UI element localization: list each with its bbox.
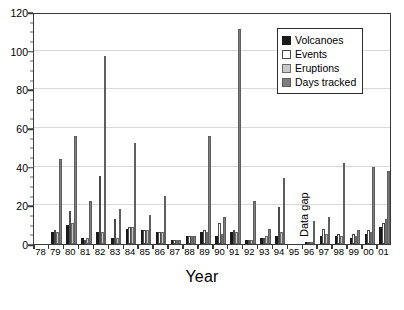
x-axis-tick-label: 99 — [348, 247, 359, 257]
y-axis-labels: 020406080100120 — [0, 0, 28, 310]
y-axis-tick-label: 120 — [10, 8, 28, 19]
bar-group — [365, 12, 378, 244]
x-axis-tick-label: 83 — [110, 247, 121, 257]
bar-group — [215, 12, 228, 244]
bar-group — [156, 12, 169, 244]
y-axis-tick — [28, 51, 33, 53]
x-axis-tick-label: 79 — [50, 247, 61, 257]
bar-group — [171, 12, 184, 244]
bar-days — [328, 217, 331, 244]
legend-label: Days tracked — [295, 77, 356, 88]
legend-item: Events — [282, 47, 356, 61]
y-axis-minor-tick — [30, 42, 33, 43]
bar-group — [51, 12, 64, 244]
legend-label: Events — [295, 49, 327, 60]
bar-group — [96, 12, 109, 244]
bar-days — [178, 240, 181, 244]
legend-swatch-days — [282, 78, 291, 87]
x-axis-tick-label: 88 — [184, 247, 195, 257]
bar-days — [119, 209, 122, 244]
y-axis-tick-label: 100 — [10, 46, 28, 57]
y-axis-minor-tick — [30, 148, 33, 149]
bar-days — [193, 236, 196, 244]
bar-days — [283, 178, 286, 244]
x-axis-tick-label: 87 — [169, 247, 180, 257]
bar-group — [200, 12, 213, 244]
x-axis-tick-label: 82 — [95, 247, 106, 257]
bar-group — [126, 12, 139, 244]
bar-days — [208, 136, 211, 244]
bar-days — [134, 143, 137, 244]
bar-days — [268, 229, 271, 244]
bar-days — [372, 167, 375, 244]
y-axis-minor-tick — [30, 71, 33, 72]
y-axis-tick — [28, 12, 33, 14]
y-axis-minor-tick — [30, 61, 33, 62]
x-axis-tick-label: 97 — [319, 247, 330, 257]
y-axis-minor-tick — [30, 119, 33, 120]
bar-days — [313, 221, 316, 244]
bar-group — [230, 12, 243, 244]
legend-swatch-eruptions — [282, 64, 291, 73]
legend-label: Volcanoes — [295, 35, 343, 46]
y-axis-tick — [28, 206, 33, 208]
bar-days — [164, 196, 167, 244]
x-axis-title: Year — [0, 268, 404, 286]
bar-days — [89, 201, 92, 244]
y-axis-minor-tick — [30, 100, 33, 101]
x-axis-tick-label: 95 — [289, 247, 300, 257]
bar-group — [81, 12, 94, 244]
legend-swatch-volcanoes — [282, 36, 291, 45]
y-axis-minor-tick — [30, 32, 33, 33]
bar-group — [379, 12, 392, 244]
x-axis-tick-label: 91 — [229, 247, 240, 257]
y-axis-minor-tick — [30, 80, 33, 81]
y-axis-tick — [28, 167, 33, 169]
x-axis-tick-label: 80 — [65, 247, 76, 257]
bar-group — [36, 12, 49, 244]
x-axis-tick-label: 81 — [80, 247, 91, 257]
bar-group — [186, 12, 199, 244]
y-axis-minor-tick — [30, 235, 33, 236]
bar-group — [245, 12, 258, 244]
bar-days — [223, 217, 226, 244]
y-axis-minor-tick — [30, 196, 33, 197]
bar-days — [59, 159, 62, 244]
bar-days — [357, 230, 360, 244]
bar-days — [253, 201, 256, 244]
legend-swatch-events — [282, 50, 291, 59]
x-axis-tick-label: 90 — [214, 247, 225, 257]
x-axis-tick-label: 98 — [333, 247, 344, 257]
legend-item: Eruptions — [282, 61, 356, 75]
y-axis-minor-tick — [30, 225, 33, 226]
x-axis-tick-label: 93 — [259, 247, 270, 257]
y-axis-tick — [28, 128, 33, 130]
y-axis-minor-tick — [30, 138, 33, 139]
y-axis-tick-label: 20 — [16, 201, 28, 212]
chart-figure: 020406080100120 787980818283848586878889… — [0, 0, 404, 310]
y-axis-tick-label: 60 — [16, 124, 28, 135]
y-axis-minor-tick — [30, 187, 33, 188]
chart-legend: VolcanoesEventsEruptionsDays tracked — [277, 28, 363, 94]
x-axis-tick-label: 00 — [363, 247, 374, 257]
y-axis-tick — [28, 90, 33, 92]
bar-group — [66, 12, 79, 244]
x-axis-labels: 7879808182838485868788899091929394959697… — [33, 247, 391, 261]
bar-group — [141, 12, 154, 244]
y-axis-tick-label: 80 — [16, 85, 28, 96]
bar-days — [104, 56, 107, 244]
bar-days — [343, 163, 346, 244]
legend-item: Volcanoes — [282, 33, 356, 47]
bar-group — [260, 12, 273, 244]
annotation-data-gap: Data gap — [298, 192, 310, 237]
y-axis-minor-tick — [30, 158, 33, 159]
bar-days — [387, 171, 390, 244]
y-axis-tick-label: 40 — [16, 162, 28, 173]
y-axis-minor-tick — [30, 177, 33, 178]
legend-item: Days tracked — [282, 75, 356, 89]
x-axis-tick-label: 01 — [378, 247, 389, 257]
legend-label: Eruptions — [295, 63, 339, 74]
bar-days — [149, 215, 152, 244]
y-axis-minor-tick — [30, 22, 33, 23]
x-axis-tick-label: 89 — [199, 247, 210, 257]
